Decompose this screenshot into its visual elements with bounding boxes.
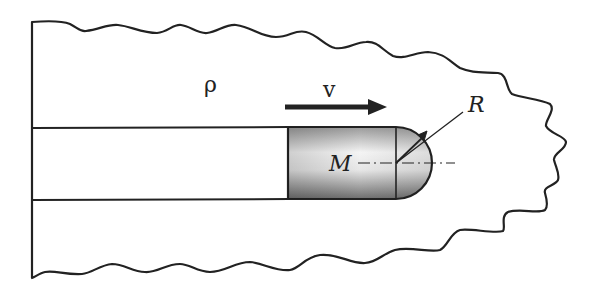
mass-label: M	[328, 151, 352, 176]
density-label: ρ	[204, 72, 217, 97]
velocity-label: v	[322, 77, 336, 102]
tube-top-edge	[32, 127, 289, 128]
tube-bottom-edge	[32, 199, 289, 200]
velocity-arrow-icon	[368, 99, 387, 115]
diagram-canvas: ρ v R M	[0, 0, 593, 294]
radius-label: R	[467, 92, 485, 117]
